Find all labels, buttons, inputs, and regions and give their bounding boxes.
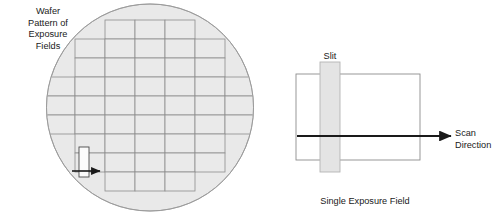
exposure-field — [135, 96, 165, 115]
slit-label: Slit — [310, 51, 350, 63]
wafer-caption-line-2: Pattern of — [10, 18, 86, 30]
exposure-field — [165, 39, 195, 58]
exposure-field — [135, 58, 165, 77]
single-exposure-field-rect — [296, 74, 420, 160]
exposure-field — [135, 77, 165, 96]
wafer-pattern-caption: Wafer Pattern of Exposure Fields — [10, 6, 86, 52]
exposure-field — [225, 96, 255, 115]
exposure-field — [225, 77, 255, 96]
exposure-field — [165, 115, 195, 134]
scan-label-line-1: Scan — [455, 128, 501, 140]
exposure-field — [195, 96, 225, 115]
wafer-caption-line-4: Fields — [10, 41, 86, 53]
exposure-field — [135, 39, 165, 58]
exposure-field-group — [296, 62, 451, 172]
exposure-field — [135, 115, 165, 134]
single-exposure-field-caption: Single Exposure Field — [300, 196, 430, 208]
exposure-field — [135, 20, 165, 39]
scan-direction-label: Scan Direction — [455, 128, 501, 151]
diagram-canvas: Wafer Pattern of Exposure Fields Slit Sc… — [0, 0, 501, 219]
exposure-field — [75, 96, 105, 115]
exposure-field — [195, 153, 225, 172]
exposure-field — [165, 172, 195, 191]
exposure-field — [105, 39, 135, 58]
exposure-field — [165, 134, 195, 153]
exposure-field — [195, 39, 225, 58]
exposure-field — [105, 153, 135, 172]
exposure-field — [195, 77, 225, 96]
slit-rect — [320, 62, 340, 172]
exposure-field — [195, 58, 225, 77]
exposure-field — [135, 172, 165, 191]
exposure-field — [165, 153, 195, 172]
wafer-slit-marker — [79, 147, 89, 177]
exposure-field — [105, 77, 135, 96]
field-row — [105, 20, 195, 39]
scan-label-line-2: Direction — [455, 140, 501, 152]
exposure-field — [105, 134, 135, 153]
field-row — [75, 58, 225, 77]
field-row — [75, 134, 225, 153]
exposure-field — [105, 115, 135, 134]
field-row — [45, 115, 255, 134]
wafer-caption-line-1: Wafer — [10, 6, 86, 18]
exposure-field — [105, 172, 135, 191]
exposure-field — [45, 77, 75, 96]
exposure-field — [75, 77, 105, 96]
exposure-field — [135, 134, 165, 153]
exposure-field — [75, 58, 105, 77]
exposure-field — [165, 77, 195, 96]
field-row — [75, 39, 225, 58]
exposure-field — [195, 115, 225, 134]
exposure-field — [45, 96, 75, 115]
field-row — [45, 77, 255, 96]
wafer-caption-line-3: Exposure — [10, 29, 86, 41]
exposure-field — [165, 20, 195, 39]
exposure-field — [135, 153, 165, 172]
exposure-field — [165, 96, 195, 115]
exposure-field — [165, 58, 195, 77]
exposure-field — [195, 134, 225, 153]
exposure-field — [105, 58, 135, 77]
exposure-field — [105, 96, 135, 115]
field-row — [45, 96, 255, 115]
field-row — [105, 172, 195, 191]
exposure-field — [75, 115, 105, 134]
field-row — [75, 153, 225, 172]
exposure-field — [105, 20, 135, 39]
